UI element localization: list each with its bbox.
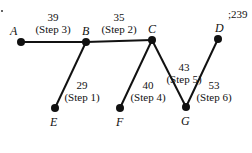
edge-label-b-e: 29 (Step 1) xyxy=(63,79,101,103)
edge-step: (Step 4) xyxy=(129,91,167,103)
edge-step: (Step 3) xyxy=(34,23,72,35)
node-b xyxy=(82,38,90,46)
node-label-e: E xyxy=(50,115,57,130)
node-d xyxy=(214,35,222,43)
node-e xyxy=(51,104,59,112)
node-a xyxy=(17,38,25,46)
edge-step: (Step 2) xyxy=(100,23,138,35)
corner-text: ;239 xyxy=(228,8,248,20)
edge-label-g-d: 53 (Step 6) xyxy=(195,79,233,103)
edge-step: (Step 1) xyxy=(63,91,101,103)
edge-weight: 40 xyxy=(129,79,167,91)
edge-weight: 35 xyxy=(100,11,138,23)
node-label-g: G xyxy=(181,114,190,129)
node-label-d: D xyxy=(215,21,224,36)
edge-label-c-f: 40 (Step 4) xyxy=(129,79,167,103)
edge-weight: 39 xyxy=(34,11,72,23)
edge-label-a-b: 39 (Step 3) xyxy=(34,11,72,35)
node-label-a: A xyxy=(10,24,17,39)
node-label-f: F xyxy=(116,115,123,130)
edge-step: (Step 6) xyxy=(195,91,233,103)
node-g xyxy=(182,103,190,111)
node-f xyxy=(116,104,124,112)
edge-b-c xyxy=(86,40,152,42)
edge-weight: 43 xyxy=(165,61,203,73)
stray-dot xyxy=(1,10,3,12)
edge-weight: 53 xyxy=(195,79,233,91)
node-label-c: C xyxy=(148,22,156,37)
edge-label-b-c: 35 (Step 2) xyxy=(100,11,138,35)
edge-weight: 29 xyxy=(63,79,101,91)
node-label-b: B xyxy=(82,24,89,39)
node-c xyxy=(148,36,156,44)
